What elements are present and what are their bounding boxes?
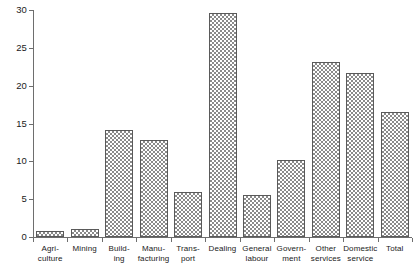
- bar: [346, 73, 374, 237]
- category-label-line1: Domestic: [343, 244, 377, 253]
- y-axis-tick-label-wrap: 15: [0, 119, 27, 129]
- x-axis-tick: [274, 238, 275, 242]
- y-axis-tick-label-wrap: 0: [0, 232, 27, 242]
- x-axis-tick: [33, 238, 34, 242]
- x-axis-tick: [240, 238, 241, 242]
- x-axis-tick: [412, 238, 413, 242]
- y-axis-tick-label: 0: [1, 232, 27, 242]
- category-label-line1: General: [242, 244, 271, 253]
- bar: [105, 130, 133, 237]
- x-axis-line: [33, 237, 412, 238]
- bar: [174, 192, 202, 237]
- bar: [243, 195, 271, 237]
- bars-group: [33, 10, 412, 237]
- x-axis-tick: [171, 238, 172, 242]
- y-axis-tick-label-wrap: 5: [0, 194, 27, 204]
- y-axis-tick-label-wrap: 10: [0, 156, 27, 166]
- category-label-line2: port: [167, 254, 209, 264]
- category-label-line1: Trans-: [176, 244, 199, 253]
- category-label-line1: Dealing: [209, 244, 237, 253]
- bar: [312, 62, 340, 237]
- y-axis-tick-label-wrap: 20: [0, 81, 27, 91]
- category-label-line1: Total: [386, 244, 403, 253]
- bar: [36, 231, 64, 237]
- category-label-line2: service: [339, 254, 381, 264]
- x-axis-tick: [309, 238, 310, 242]
- y-axis-tick-label-wrap: 25: [0, 43, 27, 53]
- x-axis-tick: [343, 238, 344, 242]
- category-label-line1: Other: [316, 244, 337, 253]
- x-axis-tick: [136, 238, 137, 242]
- y-axis-tick-label: 30: [1, 5, 27, 15]
- x-axis-category-label: Total: [374, 244, 416, 254]
- category-label-line2: culture: [29, 254, 71, 264]
- category-label-line1: Build-: [109, 244, 130, 253]
- y-axis-tick-label: 25: [1, 43, 27, 53]
- x-axis-tick: [205, 238, 206, 242]
- y-axis-tick-label: 15: [1, 119, 27, 129]
- bar: [209, 13, 237, 237]
- y-axis-tick-label: 5: [1, 194, 27, 204]
- y-axis-tick-label-wrap: 30: [0, 5, 27, 15]
- bar: [277, 160, 305, 237]
- bar: [71, 229, 99, 237]
- bar: [140, 140, 168, 237]
- y-axis-tick-label: 20: [1, 81, 27, 91]
- category-label-line1: Govern-: [277, 244, 307, 253]
- category-label-line1: Mining: [73, 244, 97, 253]
- x-axis-tick: [378, 238, 379, 242]
- bar: [381, 112, 409, 237]
- y-axis-tick-label: 10: [1, 156, 27, 166]
- bar-chart: 051015202530 Agri-cultureMiningBuild-ing…: [0, 0, 419, 269]
- x-axis-tick: [67, 238, 68, 242]
- category-label-line1: Manu-: [142, 244, 165, 253]
- category-label-line1: Agri-: [42, 244, 59, 253]
- x-axis-tick: [102, 238, 103, 242]
